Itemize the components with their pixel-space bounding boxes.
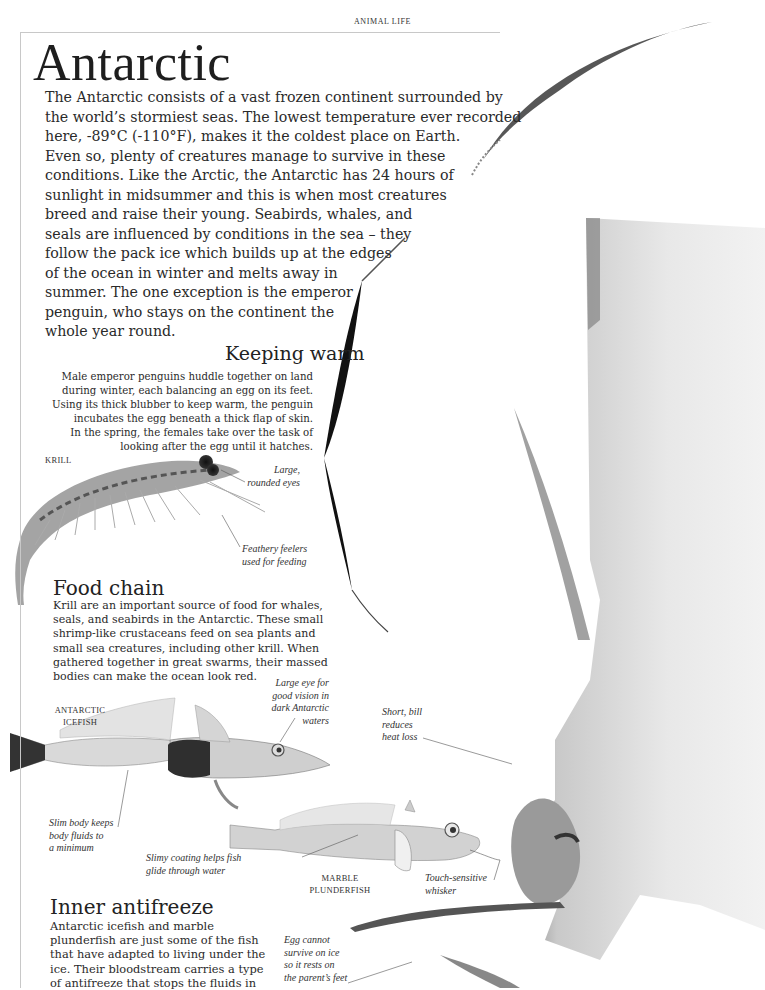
inner-antifreeze-line: plunderfish are just some of the fish — [50, 933, 265, 947]
inner-antifreeze-line: Antarctic icefish and marble — [50, 919, 265, 933]
intro-line: follow the pack ice which builds up at t… — [45, 244, 515, 264]
keeping-warm-line: In the spring, the females take over the… — [52, 426, 313, 440]
label-line: PLUNDERFISH — [290, 884, 390, 896]
caption-line: survive on ice — [284, 947, 347, 960]
intro-line: sunlight in midsummer and this is when m… — [45, 186, 515, 206]
label-line: ANTARCTIC — [45, 704, 115, 716]
caption-line: Feathery feelers — [242, 543, 307, 556]
intro-line: Even so, plenty of creatures manage to s… — [45, 147, 515, 167]
intro-line: breed and raise their young. Seabirds, w… — [45, 205, 515, 225]
label-line: MARBLE — [290, 872, 390, 884]
krill-label: KRILL — [45, 454, 72, 466]
frame-divider-left — [20, 32, 21, 988]
food-chain-line: shrimp-like crustaceans feed on sea plan… — [53, 627, 328, 641]
intro-line: the world’s stormiest seas. The lowest t… — [45, 108, 515, 128]
food-chain-heading: Food chain — [53, 576, 164, 600]
caption-line: Large eye for — [272, 677, 330, 690]
plunderfish-label: MARBLE PLUNDERFISH — [290, 872, 390, 896]
caption-line: glide through water — [146, 865, 241, 878]
plunderfish-coating-caption: Slimy coating helps fish glide through w… — [146, 852, 241, 877]
caption-line: rounded eyes — [247, 477, 300, 490]
caption-line: Touch-sensitive — [425, 872, 487, 885]
keeping-warm-paragraph: Male emperor penguins huddle together on… — [52, 370, 313, 454]
keeping-warm-line: during winter, each balancing an egg on … — [52, 384, 313, 398]
caption-line: Large, — [247, 464, 300, 477]
penguin-head-outline — [483, 22, 712, 160]
caption-line: reduces — [382, 719, 422, 732]
caption-line: Slimy coating helps fish — [146, 852, 241, 865]
food-chain-line: small sea creatures, including other kri… — [53, 642, 328, 656]
keeping-warm-heading: Keeping warm — [225, 342, 335, 364]
penguin-egg-caption: Egg cannot survive on ice so it rests on… — [284, 934, 347, 984]
intro-line: whole year round. — [45, 322, 515, 342]
intro-line: here, -89°C (-110°F), makes it the colde… — [45, 127, 515, 147]
penguin-feet-edge — [350, 902, 565, 932]
food-chain-line: gathered together in great swarms, their… — [53, 656, 328, 670]
intro-line: of the ocean in winter and melts away in — [45, 264, 515, 284]
intro-line: conditions. Like the Arctic, the Antarct… — [45, 166, 515, 186]
caption-line: whisker — [425, 885, 487, 898]
caption-line: so it rests on — [284, 959, 347, 972]
caption-line: a minimum — [49, 842, 113, 855]
food-chain-paragraph: Krill are an important source of food fo… — [53, 599, 328, 684]
frame-divider-top — [20, 32, 500, 33]
intro-paragraph: The Antarctic consists of a vast frozen … — [45, 88, 515, 342]
plunderfish-illustration — [230, 800, 480, 871]
inner-antifreeze-heading: Inner antifreeze — [50, 895, 214, 919]
icefish-label: ANTARCTIC ICEFISH — [45, 704, 115, 728]
caption-line: Slim body keeps — [49, 817, 113, 830]
icefish-eye-caption: Large eye for good vision in dark Antarc… — [272, 677, 330, 727]
inner-antifreeze-line: of antifreeze that stops the fluids in — [50, 976, 265, 990]
keeping-warm-line: looking after the egg until it hatches. — [52, 440, 313, 454]
keeping-warm-line: incubates the egg beneath a thick flap o… — [52, 412, 313, 426]
keeping-warm-line: Male emperor penguins huddle together on… — [52, 370, 313, 384]
penguin-bill-caption: Short, bill reduces heat loss — [382, 706, 422, 744]
caption-line: body fluids to — [49, 830, 113, 843]
food-chain-line: seals, and seabirds in the Antarctic. Th… — [53, 613, 328, 627]
intro-line: summer. The one exception is the emperor — [45, 283, 515, 303]
caption-line: Egg cannot — [284, 934, 347, 947]
intro-line: The Antarctic consists of a vast frozen … — [45, 88, 515, 108]
caption-line: good vision in — [272, 690, 330, 703]
icefish-body-caption: Slim body keeps body fluids to a minimum — [49, 817, 113, 855]
plunderfish-whisker-caption: Touch-sensitive whisker — [425, 872, 487, 897]
section-label: ANIMAL LIFE — [0, 17, 765, 26]
keeping-warm-line: Using its thick blubber to keep warm, th… — [52, 398, 313, 412]
caption-line: waters — [272, 715, 330, 728]
caption-line: heat loss — [382, 731, 422, 744]
caption-line: the parent’s feet — [284, 972, 347, 985]
krill-feelers-caption: Feathery feelers used for feeding — [242, 543, 307, 568]
caption-line: used for feeding — [242, 556, 307, 569]
inner-antifreeze-line: ice. Their bloodstream carries a type — [50, 962, 265, 976]
inner-antifreeze-line: that have adapted to living under the — [50, 947, 265, 961]
penguin-body-image — [511, 218, 765, 960]
intro-line: seals are influenced by conditions in th… — [45, 225, 515, 245]
caption-line: Short, bill — [382, 706, 422, 719]
label-line: ICEFISH — [45, 716, 115, 728]
caption-line: dark Antarctic — [272, 702, 330, 715]
intro-line: penguin, who stays on the continent the — [45, 303, 515, 323]
krill-eyes-caption: Large, rounded eyes — [247, 464, 300, 489]
inner-antifreeze-paragraph: Antarctic icefish and marble plunderfish… — [50, 919, 265, 990]
page-title: Antarctic — [33, 37, 231, 89]
food-chain-line: Krill are an important source of food fo… — [53, 599, 328, 613]
